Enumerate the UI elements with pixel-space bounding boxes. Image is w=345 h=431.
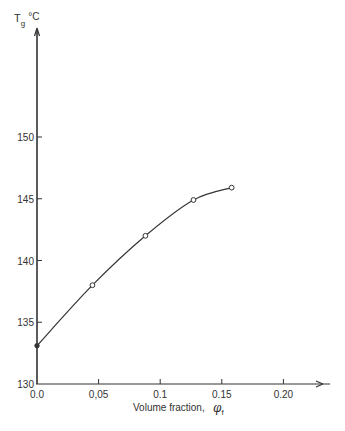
x-tick-label: 0.1 [153,389,167,400]
y-axis-title: Tg°C [14,11,39,28]
x-tick-label: 0,05 [89,389,109,400]
y-ticks: 130135140145150 [17,132,42,390]
x-tick-label: 0.0 [30,389,44,400]
chart: 130135140145150 0.00,050.10.150.20 Tg°C … [0,0,345,431]
x-axis-symbol: φf [213,401,224,417]
data-point-marker [229,185,234,190]
x-axis-title: Volume fraction, [133,402,205,413]
y-tick-label: 140 [17,256,34,267]
y-tick-label: 135 [17,317,34,328]
data-point-marker [90,283,95,288]
data-markers [35,185,234,348]
x-ticks: 0.00,050.10.150.20 [30,379,294,400]
x-tick-label: 0.15 [212,389,232,400]
x-tick-label: 0.20 [274,389,294,400]
y-tick-label: 145 [17,194,34,205]
data-curve [37,188,232,346]
data-point-marker [143,233,148,238]
data-point-marker [191,198,196,203]
y-tick-label: 150 [17,132,34,143]
data-point-marker [35,344,39,348]
